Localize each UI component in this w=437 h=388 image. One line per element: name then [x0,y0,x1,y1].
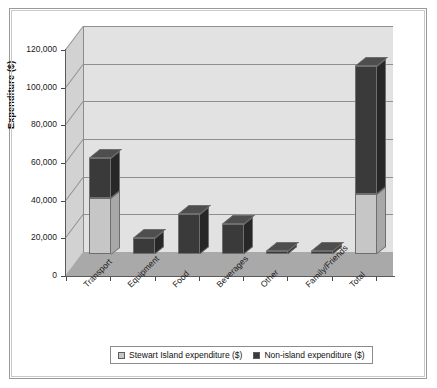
x-tick-mark [287,277,288,281]
bar-equipment [133,238,155,254]
y-tick-label: 120,000 [0,45,57,54]
bar-segment-non-island [89,158,111,198]
gridline [83,139,393,140]
bar-segment-non-island [178,214,200,254]
legend-item-non-island: Non-island expenditure ($) [253,350,364,360]
bar-segment-non-island [355,66,377,194]
bar-other [266,251,288,254]
legend-label: Non-island expenditure ($) [264,350,364,360]
x-tick-mark [155,277,156,281]
gridline [83,64,393,65]
bar-segment-non-island [311,251,333,254]
light-swatch-icon [118,352,125,359]
bar-total [355,66,377,254]
chart-legend: Stewart Island expenditure ($) Non-islan… [110,346,373,364]
y-tick-mark [61,125,65,126]
y-axis-title: Expenditure ($) [6,60,16,129]
x-tick-mark [110,277,111,281]
y-tick-mark [61,238,65,239]
bar-segment-non-island [266,251,288,254]
legend-item-stewart-island: Stewart Island expenditure ($) [118,350,242,360]
y-tick-label: 0 [0,271,57,280]
dark-swatch-icon [253,352,260,359]
x-tick-mark [376,277,377,281]
bar-segment-non-island [133,238,155,254]
plot-area: 120,000100,00080,00060,00040,00020,0000 … [65,26,395,276]
x-tick-mark [199,277,200,281]
x-tick-mark [243,277,244,281]
y-tick-label: 40,000 [0,196,57,205]
bar-beverages [222,224,244,254]
bar-food [178,214,200,254]
y-tick-label: 100,000 [0,83,57,92]
gridline [83,177,393,178]
gridline [83,101,393,102]
y-tick-label: 60,000 [0,158,57,167]
y-tick-mark [61,88,65,89]
bar-segment-stewart-island [89,198,111,255]
bar-segment-non-island [222,224,244,254]
y-tick-mark [61,276,65,277]
y-tick-mark [61,163,65,164]
chart-frame: Expenditure ($) 120,000100,00080,00060,0… [9,8,427,379]
bar-family-friends [311,251,333,254]
gridline [83,26,393,27]
y-axis-line [65,49,66,276]
y-tick-mark [61,201,65,202]
legend-label: Stewart Island expenditure ($) [129,350,242,360]
y-tick-label: 80,000 [0,120,57,129]
x-tick-mark [66,277,67,281]
x-tick-mark [332,277,333,281]
bar-transport [89,158,111,254]
y-tick-mark [61,50,65,51]
bar-segment-stewart-island [355,194,377,254]
y-tick-label: 20,000 [0,233,57,242]
